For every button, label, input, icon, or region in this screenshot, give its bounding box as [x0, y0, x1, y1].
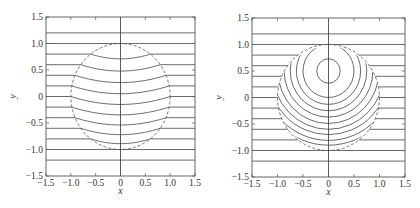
x-tick-label: 0.5	[139, 178, 151, 188]
y-tick-label: 0	[244, 93, 249, 103]
figure: −1.5−1.0−0.500.51.01.51.51.00.50−0.5−1.0…	[0, 0, 420, 208]
y-tick-label: 1.0	[31, 39, 43, 49]
y-tick-label: 0.5	[31, 65, 43, 75]
y-axis-label: y	[7, 94, 18, 100]
y-tick-label: −1.5	[232, 172, 249, 182]
x-tick-label: 1.5	[399, 179, 411, 189]
left-contour-plot: −1.5−1.0−0.500.51.01.51.51.00.50−0.5−1.0…	[7, 12, 201, 196]
x-tick-label: 1.5	[189, 178, 201, 188]
y-tick-label: 0	[38, 92, 43, 102]
y-tick-label: 1.5	[237, 13, 249, 23]
y-tick-label: −1.5	[26, 171, 43, 181]
x-tick-label: 0.5	[348, 179, 360, 189]
y-axis-label: y	[213, 95, 224, 101]
y-tick-label: 1.5	[31, 12, 43, 22]
x-tick-label: −1.0	[62, 178, 79, 188]
y-tick-label: −1.0	[232, 146, 249, 156]
y-tick-label: 0.5	[237, 66, 249, 76]
x-axis-label: x	[325, 186, 331, 197]
y-tick-label: −0.5	[232, 119, 249, 129]
y-tick-label: −1.0	[26, 145, 43, 155]
ticks: −1.5−1.0−0.500.51.01.51.51.00.50−0.5−1.0…	[26, 12, 201, 188]
y-tick-label: −0.5	[26, 118, 43, 128]
x-tick-label: −1.0	[269, 179, 286, 189]
right-contour-plot: −1.5−1.0−0.500.51.01.51.51.00.50−0.5−1.0…	[213, 0, 411, 197]
x-tick-label: 1.0	[374, 179, 386, 189]
x-tick-label: −0.5	[87, 178, 104, 188]
x-tick-label: −0.5	[294, 179, 311, 189]
x-tick-label: 1.0	[164, 178, 176, 188]
ticks: −1.5−1.0−0.500.51.01.51.51.00.50−0.5−1.0…	[232, 13, 411, 189]
x-axis-label: x	[117, 185, 123, 196]
y-tick-label: 1.0	[237, 40, 249, 50]
